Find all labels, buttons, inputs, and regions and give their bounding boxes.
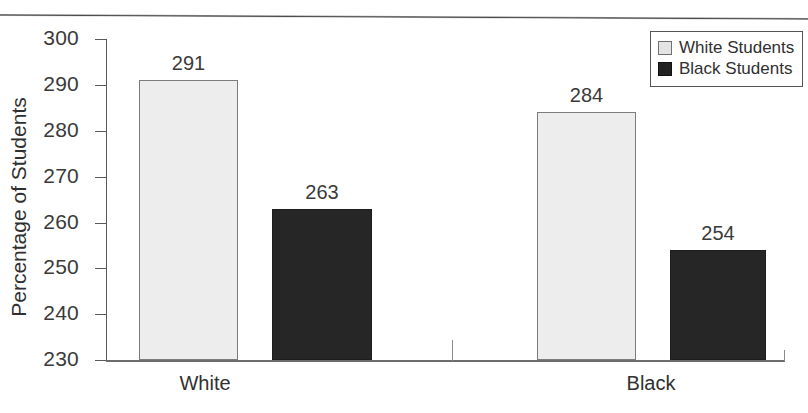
y-tick-280: 280 (95, 131, 106, 132)
y-tick-240: 240 (95, 314, 106, 315)
bar-black-students-white[interactable]: 263 (272, 209, 372, 360)
bar-value-label: 254 (701, 222, 734, 245)
legend-swatch-icon (658, 62, 672, 76)
y-tick-label-300: 300 (43, 26, 79, 50)
y-axis-title: Percentage of Students (2, 0, 36, 413)
x-axis-end-tick (784, 350, 785, 361)
y-tick-label-290: 290 (43, 72, 79, 96)
y-tick-label-240: 240 (43, 301, 79, 325)
x-axis-line (106, 360, 785, 362)
plot-area: 300 290 280 270 260 250 240 230 291 26 (106, 39, 785, 360)
bar-value-label: 291 (172, 52, 205, 75)
y-tick-label-250: 250 (43, 255, 79, 279)
y-axis-title-text: Percentage of Students (7, 97, 31, 317)
y-tick-270: 270 (95, 177, 106, 178)
y-tick-label-270: 270 (43, 164, 79, 188)
y-axis-line (106, 39, 107, 360)
legend-swatch-icon (658, 41, 672, 55)
x-category-label-black: Black (627, 372, 676, 395)
legend-item-black-students[interactable]: Black Students (658, 59, 794, 79)
group-divider-tick (452, 340, 453, 361)
y-tick-label-260: 260 (43, 210, 79, 234)
y-tick-label-230: 230 (43, 347, 79, 371)
bar-white-students-black[interactable]: 284 (537, 112, 636, 360)
y-tick-260: 260 (95, 223, 106, 224)
legend-label: White Students (679, 38, 794, 58)
bar-black-students-black[interactable]: 254 (670, 250, 766, 360)
top-divider-rule (0, 14, 808, 20)
y-tick-250: 250 (95, 268, 106, 269)
legend-item-white-students[interactable]: White Students (658, 38, 794, 58)
bar-white-students-white[interactable]: 291 (139, 80, 238, 360)
bar-value-label: 284 (570, 84, 603, 107)
x-category-label-white: White (179, 372, 230, 395)
y-tick-230: 230 (95, 360, 106, 361)
bar-value-label: 263 (305, 181, 338, 204)
legend-label: Black Students (679, 59, 792, 79)
y-tick-290: 290 (95, 85, 106, 86)
y-tick-300: 300 (95, 39, 106, 40)
legend: White Students Black Students (650, 31, 803, 87)
y-tick-label-280: 280 (43, 118, 79, 142)
bar-chart-figure: Percentage of Students 300 290 280 270 2… (0, 0, 808, 413)
